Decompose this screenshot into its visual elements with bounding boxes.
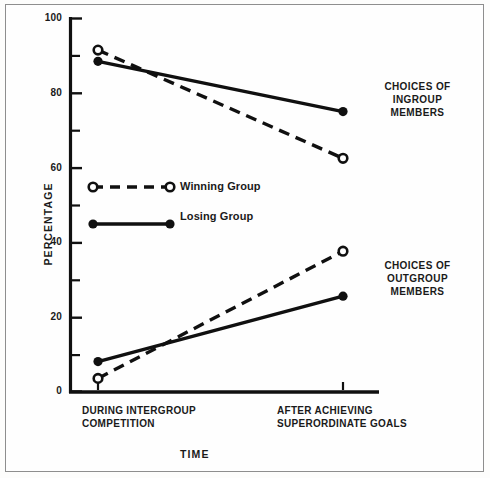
- annotation-outgroup-line1: CHOICES OF: [360, 259, 475, 272]
- x-category-after-line2: SUPERORDINATE GOALS: [277, 417, 407, 430]
- x-category-during-line2: COMPETITION: [82, 417, 196, 430]
- y-tick-label-20: 20: [24, 311, 62, 322]
- annotation-ingroup-line3: MEMBERS: [360, 106, 475, 119]
- series-outgroup-losing: [93, 292, 347, 367]
- annotation-outgroup-line3: MEMBERS: [360, 285, 475, 298]
- y-minor-ticks: [72, 56, 80, 355]
- annotation-ingroup-line2: INGROUP: [360, 93, 475, 106]
- legend-label-winning: Winning Group: [180, 180, 261, 192]
- y-tick-label-80: 80: [24, 87, 62, 98]
- figure-container: 100 80 60 40 20 0 PERCENTAGE DURING INTE…: [0, 0, 490, 478]
- x-category-after-line1: AFTER ACHIEVING: [277, 404, 407, 417]
- series-outgroup-winning: [94, 247, 348, 383]
- plot-area: [0, 0, 490, 478]
- y-tick-label-0: 0: [24, 385, 62, 396]
- annotation-ingroup: CHOICES OF INGROUP MEMBERS: [360, 80, 475, 119]
- annotation-outgroup: CHOICES OF OUTGROUP MEMBERS: [360, 259, 475, 298]
- x-category-label-during: DURING INTERGROUP COMPETITION: [82, 404, 196, 430]
- legend-swatch-winning: [89, 183, 175, 192]
- legend-label-losing: Losing Group: [180, 210, 253, 222]
- y-tick-label-100: 100: [24, 12, 62, 23]
- y-axis-title: PERCENTAGE: [42, 164, 54, 284]
- legend-swatch-losing: [88, 219, 174, 228]
- annotation-ingroup-line1: CHOICES OF: [360, 80, 475, 93]
- x-ticks: [98, 382, 343, 390]
- annotation-outgroup-line2: OUTGROUP: [360, 272, 475, 285]
- x-category-label-after: AFTER ACHIEVING SUPERORDINATE GOALS: [277, 404, 407, 430]
- x-category-during-line1: DURING INTERGROUP: [82, 404, 196, 417]
- x-axis-title: TIME: [180, 448, 209, 460]
